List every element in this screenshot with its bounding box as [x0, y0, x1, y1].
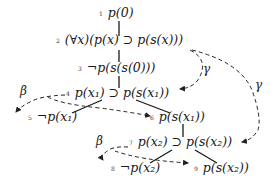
node-4: 4p(x₁) ⊃ p(s(x₁)) — [66, 86, 169, 101]
formula-4: p(x₁) ⊃ p(s(x₁)) — [75, 85, 169, 100]
node-5: 5¬p(x₁) — [28, 110, 77, 125]
node-2: 2(∀x)(p(x) ⊃ p(s(x))) — [56, 33, 183, 48]
node-3: 3¬p(s(s(0))) — [78, 61, 155, 76]
beta-label-1: β — [20, 84, 27, 98]
tableau-diagram: 1p(0) 2(∀x)(p(x) ⊃ p(s(x))) 3¬p(s(s(0)))… — [0, 0, 276, 185]
beta-label-2: β — [96, 134, 103, 148]
formula-6: p(s(x₁)) — [159, 109, 205, 124]
gamma-label-1: γ — [203, 62, 210, 76]
node-6: 6p(s(x₁)) — [150, 110, 205, 125]
node-7: 7p(x₂) ⊃ p(s(x₂)) — [129, 135, 232, 150]
formula-9: p(s(x₂)) — [203, 160, 249, 175]
formula-1: p(0) — [108, 5, 134, 20]
formula-3: ¬p(s(s(0))) — [87, 60, 156, 75]
formula-5: ¬p(x₁) — [37, 109, 77, 124]
formula-2: (∀x)(p(x) ⊃ p(s(x))) — [65, 32, 183, 47]
node-1: 1p(0) — [99, 6, 134, 21]
formula-7: p(x₂) ⊃ p(s(x₂)) — [138, 134, 232, 149]
gamma-label-2: γ — [255, 78, 262, 92]
formula-8: ¬p(x₂) — [120, 160, 160, 175]
node-8: 8¬p(x₂) — [111, 161, 160, 176]
node-9: 9p(s(x₂)) — [194, 161, 249, 176]
